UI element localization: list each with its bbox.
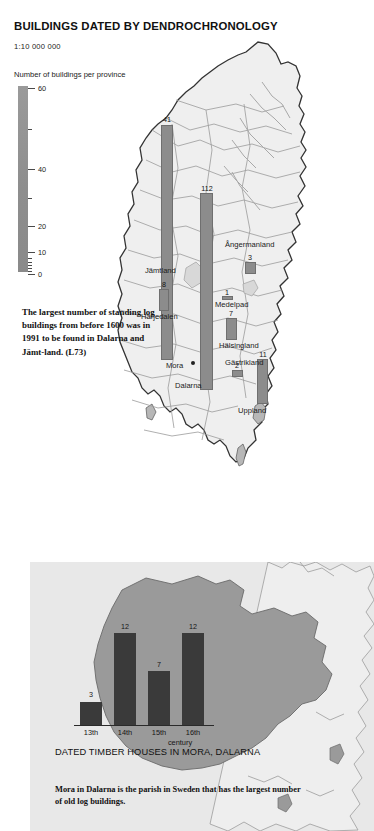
inset-bar-13th [80, 702, 102, 725]
inset-bar-value-14th: 12 [121, 622, 129, 631]
map-scale: 1:10 000 000 [14, 42, 61, 51]
legend-tick-minor-6 [28, 268, 32, 269]
page-title: BUILDINGS DATED BY DENDROCHRONOLOGY [14, 20, 278, 32]
legend-tick-minor-8 [28, 262, 32, 263]
legend-tick-0 [28, 274, 35, 275]
legend-tick-minor-9 [28, 258, 32, 259]
legend-tick-10 [28, 252, 35, 253]
inset-bar-14th [114, 633, 136, 725]
city-label-mora: Mora [166, 361, 183, 370]
province-label-angermanland: Ångermanland [225, 240, 274, 249]
inset-footnote: Mora in Dalarna is the parish in Sweden … [55, 784, 305, 807]
legend-label-60: 60 [38, 84, 46, 93]
legend-tick-minor-30 [28, 198, 32, 199]
legend-caption: Number of buildings per province [14, 70, 125, 79]
legend-tick-minor-7 [28, 265, 32, 266]
inset-bar-label-16th: 16th [186, 728, 200, 737]
bar-dalarna [200, 193, 213, 390]
province-label-medelpad: Medelpad [215, 300, 248, 309]
province-label-halsingland: Hälsingland [219, 341, 259, 350]
bar-value-harjedalen: 8 [162, 280, 166, 289]
legend-label-40: 40 [38, 165, 46, 174]
bar-value-dalarna: 112 [201, 184, 212, 193]
inset-x-axis [74, 725, 214, 726]
inset-title: DATED TIMBER HOUSES IN MORA, DALARNA [55, 746, 285, 758]
page-root: BUILDINGS DATED BY DENDROCHRONOLOGY 1:10… [0, 0, 374, 831]
legend-tick-20 [28, 226, 35, 227]
legend-gradient-bar [18, 86, 28, 272]
inset-panel: 3 13th 12 14th 7 15th 12 16th century DA… [30, 562, 374, 831]
legend-tick-40 [28, 169, 35, 170]
inset-bar-label-15th: 15th [152, 728, 166, 737]
island-west [146, 404, 156, 420]
bar-value-jamtland: 41 [163, 115, 171, 124]
legend-label-0: 0 [38, 270, 42, 279]
inset-bar-value-13th: 3 [89, 690, 93, 699]
inset-bar-label-14th: 14th [118, 728, 132, 737]
inset-bar-value-15th: 7 [157, 660, 161, 669]
bar-value-halsingland: 7 [229, 309, 233, 318]
inset-bar-16th [182, 633, 204, 725]
legend-scale: 60 40 20 10 0 [18, 86, 88, 276]
bar-angermanland [245, 262, 256, 274]
bar-value-angermanland: 3 [248, 253, 252, 262]
province-label-jamtland: Jämtland [145, 266, 176, 275]
inset-bar-label-13th: 13th [84, 728, 98, 737]
sweden-map [0, 0, 374, 560]
province-label-gastrikland: Gästrikland [225, 358, 263, 367]
legend-label-10: 10 [38, 248, 46, 257]
legend-tick-60 [28, 88, 35, 89]
province-label-dalarna: Dalarna [175, 381, 202, 390]
legend-tick-minor-50 [28, 129, 32, 130]
legend-label-20: 20 [38, 222, 46, 231]
bar-jamtland [161, 125, 173, 360]
bar-halsingland [226, 318, 237, 340]
bar-value-medelpad: 1 [225, 288, 229, 297]
city-marker-mora [191, 361, 195, 365]
map-note: The largest number of standing log build… [22, 306, 162, 359]
legend-tick-minor-5 [28, 271, 32, 272]
bar-gastrikland [232, 370, 243, 377]
inset-bar-value-16th: 12 [189, 622, 197, 631]
inset-bar-15th [148, 671, 170, 725]
province-label-uppland: Uppland [238, 406, 266, 415]
